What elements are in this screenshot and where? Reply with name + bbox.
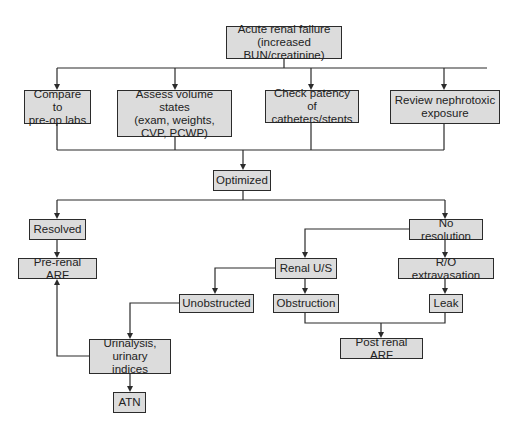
node-obstruction: Obstruction (273, 294, 339, 313)
edge-optimized-split (57, 190, 445, 213)
node-ro-extravasation: R/O extravasation (398, 258, 494, 279)
node-renal-us: Renal U/S (275, 258, 337, 279)
node-compare-pre-op-labs: Compare to pre-op labs (24, 90, 91, 124)
node-optimized: Optimized (213, 170, 271, 191)
node-review-nephrotoxic: Review nephrotoxic exposure (390, 90, 500, 124)
node-post-renal-arf: Post renal ARF (340, 338, 423, 359)
node-urinalysis: Urinalysis, urinary indices (89, 339, 171, 374)
flowchart: Acute renal failure (increased BUN/creat… (0, 0, 513, 428)
edge-renalus-unobstructed (215, 268, 275, 288)
edge-merge-optimized (57, 122, 444, 164)
node-resolved: Resolved (29, 219, 86, 240)
node-unobstructed: Unobstructed (179, 294, 254, 313)
node-assess-volume-states: Assess volume states (exam, weights, CVP… (117, 90, 232, 137)
connector-layer (0, 0, 513, 428)
node-no-resolution: No resolution (409, 219, 483, 240)
node-acute-renal-failure: Acute renal failure (increased BUN/creat… (226, 26, 342, 59)
edge-urinalysis-prerenal (57, 285, 89, 356)
node-atn: ATN (113, 392, 146, 413)
node-check-patency: Check patency of catheters/stents (265, 90, 359, 123)
edge-merge-postrenal (305, 312, 445, 332)
node-leak: Leak (429, 294, 463, 313)
node-pre-renal-arf: Pre-renal ARF (18, 258, 97, 279)
edge-unobstructed-urinalysis (130, 303, 179, 333)
edge-noresolution-renalus (305, 229, 409, 252)
